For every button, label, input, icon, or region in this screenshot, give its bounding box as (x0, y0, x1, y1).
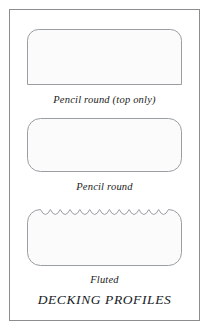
decking-profiles-plate: Pencil round (top only) Pencil round Flu… (0, 0, 209, 330)
profile-caption: Pencil round (top only) (10, 93, 199, 106)
profile-caption: Fluted (10, 273, 199, 286)
profile-caption: Pencil round (10, 180, 199, 193)
profile-shape-pencil-round (24, 115, 185, 175)
plate-title: DECKING PROFILES (10, 292, 199, 308)
profile-figure-fluted: Fluted (10, 206, 199, 286)
profile-figure-pencil-round-top-only: Pencil round (top only) (10, 26, 199, 106)
profile-figure-pencil-round: Pencil round (10, 115, 199, 193)
shape-outline (28, 30, 182, 85)
shape-outline (28, 210, 182, 266)
shape-outline (28, 119, 182, 172)
plate-border-frame: Pencil round (top only) Pencil round Flu… (9, 9, 200, 321)
profile-shape-fluted (24, 206, 185, 268)
profile-figure-stack: Pencil round (top only) Pencil round Flu… (10, 10, 199, 320)
profile-shape-pencil-round-top-only (24, 26, 185, 88)
